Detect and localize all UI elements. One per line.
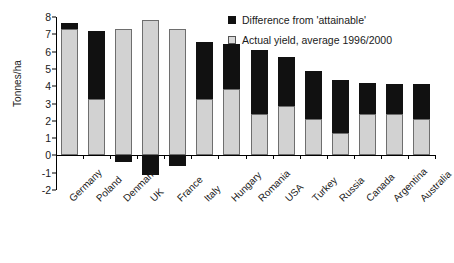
y-axis-title: Tonnes/ha — [12, 39, 23, 129]
chart-legend: Difference from 'attainable' Actual yiel… — [228, 14, 392, 54]
x-tick-mark — [381, 155, 382, 159]
y-tick-label: -2 — [42, 184, 51, 196]
bar-segment-difference — [359, 83, 376, 114]
x-tick-mark — [218, 155, 219, 159]
legend-label-difference: Difference from 'attainable' — [242, 14, 366, 26]
bar-segment-actual-yield — [196, 99, 213, 155]
bar-segment-actual-yield — [332, 133, 349, 155]
y-tick-mark — [52, 51, 56, 52]
x-tick-mark — [137, 155, 138, 159]
y-tick-label: 5 — [45, 63, 51, 75]
x-tick-mark — [408, 155, 409, 159]
bar-segment-actual-yield — [61, 29, 78, 155]
bar-segment-actual-yield — [169, 29, 186, 155]
y-tick-mark — [52, 17, 56, 18]
y-tick-label: 3 — [45, 98, 51, 110]
y-tick-label: 1 — [45, 132, 51, 144]
bar-segment-actual-yield — [88, 99, 105, 155]
bar-france — [169, 17, 186, 190]
bar-segment-difference — [61, 23, 78, 29]
y-tick-label: 4 — [45, 80, 51, 92]
x-tick-mark — [435, 155, 436, 159]
legend-label-actual-yield: Actual yield, average 1996/2000 — [242, 34, 392, 46]
bar-segment-actual-yield — [413, 119, 430, 155]
y-tick-label: 7 — [45, 28, 51, 40]
bar-segment-actual-yield — [251, 114, 268, 156]
y-tick-mark — [52, 68, 56, 69]
x-tick-mark — [300, 155, 301, 159]
y-tick-label: 0 — [45, 149, 51, 161]
x-tick-mark — [191, 155, 192, 159]
y-tick-mark — [52, 190, 56, 191]
bar-segment-difference — [251, 50, 268, 114]
x-tick-mark — [83, 155, 84, 159]
bar-segment-difference — [88, 31, 105, 99]
bar-segment-difference — [386, 84, 403, 114]
y-tick-mark — [52, 138, 56, 139]
bar-segment-actual-yield — [305, 119, 322, 155]
bar-segment-difference — [413, 84, 430, 119]
bar-segment-difference — [332, 80, 349, 133]
black-square-icon — [228, 16, 236, 24]
bar-germany — [61, 17, 78, 190]
y-tick-mark — [52, 103, 56, 104]
bar-segment-actual-yield — [278, 106, 295, 155]
bar-segment-actual-yield — [359, 114, 376, 156]
bar-australia — [413, 17, 430, 190]
y-tick-label: -1 — [42, 167, 51, 179]
x-tick-mark — [110, 155, 111, 159]
x-tick-mark — [273, 155, 274, 159]
bar-poland — [88, 17, 105, 190]
bar-segment-actual-yield — [142, 20, 159, 155]
y-tick-mark — [52, 120, 56, 121]
bar-segment-actual-yield — [115, 29, 132, 155]
bar-segment-difference — [169, 155, 186, 165]
bar-segment-difference — [278, 57, 295, 106]
bar-segment-difference — [196, 42, 213, 99]
bar-uk — [142, 17, 159, 190]
bar-segment-actual-yield — [223, 89, 240, 156]
bar-denmark — [115, 17, 132, 190]
y-tick-mark — [52, 172, 56, 173]
x-tick-mark — [354, 155, 355, 159]
bar-segment-difference — [305, 71, 322, 119]
bar-italy — [196, 17, 213, 190]
y-tick-label: 8 — [45, 11, 51, 23]
legend-item-difference: Difference from 'attainable' — [228, 14, 392, 26]
y-tick-label: 2 — [45, 115, 51, 127]
y-tick-label: 6 — [45, 46, 51, 58]
bar-segment-difference — [115, 155, 132, 162]
x-tick-mark — [246, 155, 247, 159]
x-tick-mark — [327, 155, 328, 159]
y-axis-line — [56, 17, 57, 190]
bar-segment-actual-yield — [386, 114, 403, 156]
grey-square-icon — [228, 36, 236, 44]
x-tick-mark — [164, 155, 165, 159]
x-tick-mark — [56, 155, 57, 159]
y-tick-mark — [52, 86, 56, 87]
legend-item-actual-yield: Actual yield, average 1996/2000 — [228, 34, 392, 46]
y-tick-mark — [52, 34, 56, 35]
